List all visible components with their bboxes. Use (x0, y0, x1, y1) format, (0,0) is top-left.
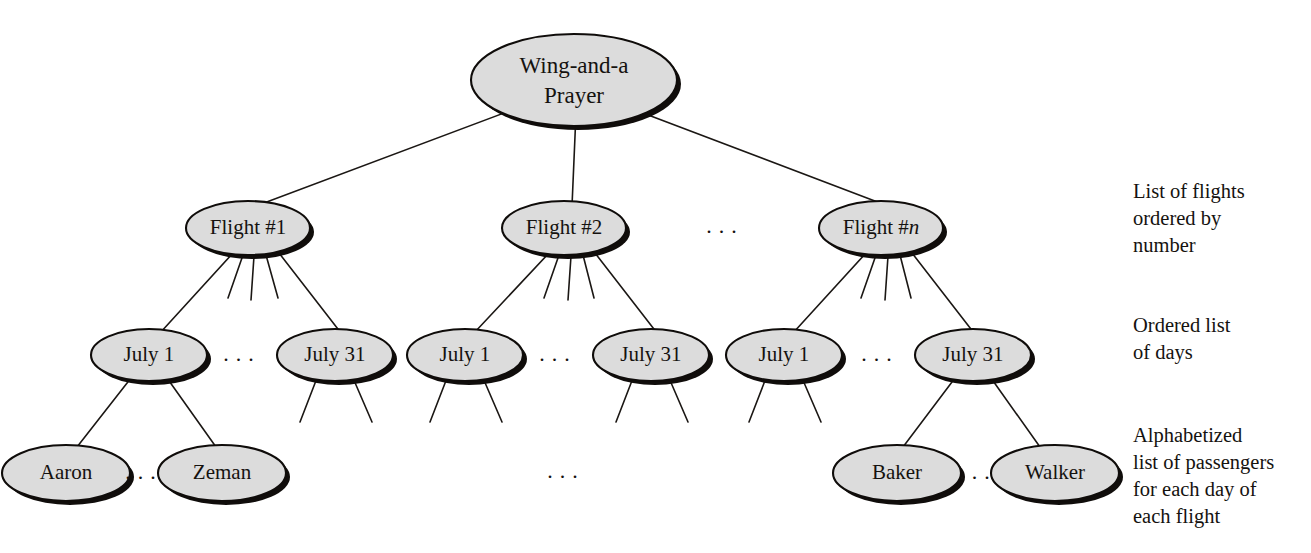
edge-root-flightn (635, 110, 888, 206)
zeman-label: Zeman (193, 460, 252, 484)
root-node-body (471, 34, 677, 126)
center-pax-ellipsis: ... (547, 458, 585, 483)
node-passenger-aaron[interactable]: Aaron (2, 445, 134, 505)
edge-f1d1-aaron (77, 378, 131, 447)
stub-f1d31-b (353, 378, 372, 422)
f2d31-label: July 31 (620, 342, 681, 366)
flight-row-ellipsis: ... (706, 213, 744, 238)
walker-label: Walker (1025, 460, 1085, 484)
stub-flightn-b (885, 256, 888, 300)
f1d1-label: July 1 (124, 342, 175, 366)
stub-flight1-a (228, 255, 243, 298)
edge-f1d1-zeman (167, 378, 216, 447)
right-pax-ellipsis: ... (959, 459, 997, 484)
flight1-label: Flight #1 (210, 215, 286, 239)
stub-flight1-b (251, 256, 254, 300)
node-fn-july-1[interactable]: July 1 (726, 329, 846, 385)
left-pax-ellipsis: ... (125, 459, 163, 484)
stub-f2d1-a (430, 378, 447, 422)
stub-fnd1-b (802, 378, 821, 422)
stub-flight2-b (568, 256, 571, 300)
stub-flightn-a (861, 255, 876, 298)
root-node-label-line1: Wing-and-a (520, 53, 629, 78)
stub-fnd1-a (749, 378, 766, 422)
stub-flight2-c (583, 255, 594, 298)
edge-fnd31-baker (903, 378, 955, 447)
edge-fnd31-walker (991, 378, 1040, 447)
flightn-label-main: Flight # (843, 215, 909, 239)
tree-canvas: Wing-and-a Prayer Flight #1 Flight #2 Fl… (0, 0, 1311, 553)
fnd1-label: July 1 (759, 342, 810, 366)
stub-flight2-a (544, 255, 559, 298)
stub-f2d1-b (483, 378, 502, 422)
f1d31-label: July 31 (304, 342, 365, 366)
stub-f2d31-b (669, 378, 688, 422)
flightn-label-italic: n (909, 215, 920, 239)
fn-days-ellipsis: ... (861, 341, 899, 366)
stub-flightn-c (900, 255, 911, 298)
node-f2-july-31[interactable]: July 31 (593, 329, 713, 385)
annotation-flights: List of flights ordered by number (1133, 178, 1308, 259)
node-flight-n[interactable]: Flight #n (819, 201, 947, 259)
node-root-wing-and-a-prayer[interactable]: Wing-and-a Prayer (471, 34, 681, 130)
node-f2-july-1[interactable]: July 1 (407, 329, 527, 385)
annotation-passengers: Alphabetized list of passengers for each… (1133, 422, 1311, 530)
edge-flight1-july1 (160, 253, 233, 333)
edges-days-to-passengers (77, 378, 1040, 447)
node-f1-july-31[interactable]: July 31 (277, 329, 397, 385)
f1-days-ellipsis: ... (223, 341, 261, 366)
flightn-label: Flight #n (843, 215, 919, 239)
edge-flight1-july31 (279, 253, 341, 333)
edges-flight1-to-days (160, 253, 341, 333)
node-flight-1[interactable]: Flight #1 (186, 201, 314, 259)
aaron-label: Aaron (40, 460, 93, 484)
root-node-label-line2: Prayer (544, 83, 604, 108)
stub-f1d31-a (300, 378, 317, 422)
edge-root-flight1 (256, 110, 512, 206)
node-f1-july-1[interactable]: July 1 (91, 329, 211, 385)
node-flight-2[interactable]: Flight #2 (502, 201, 630, 259)
edge-flight2-july1 (474, 253, 549, 333)
f2-days-ellipsis: ... (539, 341, 577, 366)
node-passenger-zeman[interactable]: Zeman (158, 445, 290, 505)
stub-flight1-c (266, 255, 278, 298)
node-passenger-baker[interactable]: Baker (833, 445, 965, 505)
f2d1-label: July 1 (440, 342, 491, 366)
baker-label: Baker (872, 460, 922, 484)
edges-flight2-to-days (474, 253, 657, 333)
edges-flightn-to-days (793, 253, 974, 333)
org-tree-diagram: Wing-and-a Prayer Flight #1 Flight #2 Fl… (0, 0, 1311, 553)
node-passenger-walker[interactable]: Walker (991, 445, 1123, 505)
annotation-days: Ordered list of days (1133, 312, 1308, 366)
edge-flightn-july1 (793, 253, 866, 333)
node-fn-july-31[interactable]: July 31 (915, 329, 1035, 385)
stub-f2d31-a (616, 378, 633, 422)
edge-flightn-july31 (912, 253, 974, 333)
edge-flight2-july31 (595, 253, 657, 333)
flight2-label: Flight #2 (526, 215, 602, 239)
fnd31-label: July 31 (942, 342, 1003, 366)
